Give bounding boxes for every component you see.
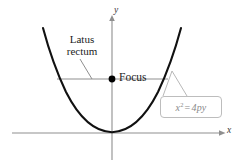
- y-axis-label: y: [114, 6, 118, 16]
- equation-leader-line-lower: [172, 71, 187, 96]
- latus-rectum-leader-line: [80, 59, 92, 79]
- equation-leader-line-upper: [163, 71, 172, 96]
- latus-rectum-label-line1: Latus: [58, 34, 106, 46]
- equation-right-side: 4py: [191, 102, 206, 113]
- equation-text: x2=4py: [176, 101, 207, 113]
- latus-rectum-label-line2: rectum: [58, 46, 106, 58]
- focus-label: Focus: [119, 71, 146, 83]
- x-axis-arrowhead: [219, 130, 226, 136]
- equation-callout-box: x2=4py: [160, 96, 222, 118]
- x-axis-label: x: [227, 126, 231, 136]
- y-axis-group: [109, 15, 115, 160]
- parabola-figure: Latus rectum Focus y x x2=4py: [0, 0, 239, 165]
- latus-rectum-label: Latus rectum: [58, 34, 106, 57]
- focus-point-dot: [109, 76, 116, 83]
